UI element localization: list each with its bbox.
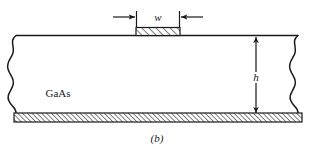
- figure-caption: (b): [151, 132, 164, 145]
- gate-contact: [136, 28, 180, 36]
- semiconductor-cross-section-figure: w h GaAs (b): [0, 0, 314, 149]
- figure-drawing-canvas: w h GaAs (b): [0, 0, 314, 149]
- back-contact-layer: [14, 113, 302, 122]
- height-dimension-label: h: [253, 71, 259, 83]
- left-break-line: [8, 36, 16, 113]
- width-dimension-label: w: [154, 11, 162, 23]
- material-label: GaAs: [45, 87, 70, 99]
